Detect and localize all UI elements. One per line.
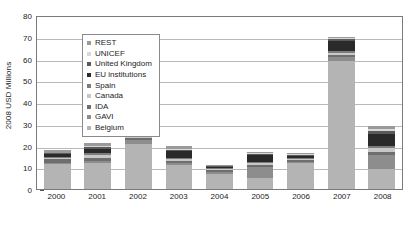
stacked-bar[interactable]: [166, 146, 193, 189]
legend-item[interactable]: Canada: [87, 91, 152, 102]
stacked-bar[interactable]: [44, 150, 71, 189]
y-axis-tick-label: 10: [10, 164, 32, 173]
bar-slot: [240, 17, 281, 189]
y-axis-tick-label: 30: [10, 120, 32, 129]
legend-item[interactable]: EU institutions: [87, 70, 152, 81]
legend-swatch-icon: [87, 73, 91, 77]
legend-item[interactable]: Belgium: [87, 123, 152, 134]
x-axis-tick-label: 2007: [321, 192, 362, 201]
stacked-bar[interactable]: [206, 165, 233, 189]
legend-item[interactable]: REST: [87, 38, 152, 49]
legend-item-label: IDA: [95, 102, 108, 112]
y-axis-tick-label: 70: [10, 33, 32, 42]
bar-segment: [84, 163, 111, 189]
legend-item[interactable]: United Kingdom: [87, 59, 152, 70]
y-axis-tick-label: 20: [10, 142, 32, 151]
bar-segment: [368, 134, 395, 146]
stacked-bar[interactable]: [247, 152, 274, 189]
x-axis-tick-label: 2006: [281, 192, 322, 201]
legend-swatch-icon: [87, 105, 91, 109]
legend-item[interactable]: UNICEF: [87, 49, 152, 60]
legend-item-label: United Kingdom: [95, 59, 152, 69]
bar-segment: [44, 164, 71, 189]
bar-segment: [368, 169, 395, 189]
stacked-bar[interactable]: [328, 37, 355, 189]
bar-segment: [247, 167, 274, 178]
x-axis-tick-label: 2000: [36, 192, 77, 201]
y-axis-tick-label: 60: [10, 55, 32, 64]
bar-slot: [280, 17, 321, 189]
legend-item-label: REST: [95, 38, 116, 48]
bar-segment: [328, 41, 355, 51]
legend-item[interactable]: IDA: [87, 102, 152, 113]
legend-item-label: UNICEF: [95, 49, 125, 59]
x-axis-tick-label: 2003: [158, 192, 199, 201]
legend-swatch-icon: [87, 84, 91, 88]
stacked-bar[interactable]: [368, 126, 395, 189]
plot-area: RESTUNICEFUnited KingdomEU institutionsS…: [36, 16, 403, 190]
stacked-bar[interactable]: [84, 143, 111, 189]
bar-slot: [321, 17, 362, 189]
stacked-bar-chart: 2008 USD Millions 01020304050607080 REST…: [0, 0, 414, 227]
y-axis-tick-label: 50: [10, 77, 32, 86]
legend-item-label: Canada: [95, 91, 123, 101]
legend-swatch-icon: [87, 62, 91, 66]
legend-swatch-icon: [87, 41, 91, 45]
legend-item[interactable]: GAVI: [87, 112, 152, 123]
x-axis-tick-label: 2004: [199, 192, 240, 201]
legend-item-label: EU institutions: [95, 70, 146, 80]
bar-slot: [37, 17, 78, 189]
legend-item-label: GAVI: [95, 112, 114, 122]
y-axis-tick-label: 0: [10, 186, 32, 195]
y-axis-tick: [40, 190, 44, 191]
bar-segment: [287, 163, 314, 189]
bar-segment: [206, 174, 233, 189]
y-axis-tick-labels: 01020304050607080: [8, 16, 32, 190]
legend-item-label: Spain: [95, 81, 115, 91]
bar-segment: [328, 61, 355, 189]
bar-slot: [159, 17, 200, 189]
legend-swatch-icon: [87, 126, 91, 130]
y-axis-tick-label: 40: [10, 99, 32, 108]
bar-slot: [362, 17, 403, 189]
bar-segment: [247, 178, 274, 189]
legend: RESTUNICEFUnited KingdomEU institutionsS…: [82, 34, 160, 137]
legend-swatch-icon: [87, 94, 91, 98]
legend-swatch-icon: [87, 115, 91, 119]
y-axis-tick-label: 80: [10, 12, 32, 21]
bar-slot: [199, 17, 240, 189]
x-axis-tick-labels: 200020012002200320042005200620072008: [36, 192, 403, 201]
x-axis-tick-label: 2001: [77, 192, 118, 201]
x-axis-tick-label: 2002: [118, 192, 159, 201]
x-axis-tick-label: 2005: [240, 192, 281, 201]
legend-item-label: Belgium: [95, 123, 124, 133]
x-axis-tick-label: 2008: [362, 192, 403, 201]
bar-segment: [125, 144, 152, 189]
bar-segment: [166, 165, 193, 189]
legend-item[interactable]: Spain: [87, 80, 152, 91]
bar-segment: [368, 155, 395, 169]
legend-swatch-icon: [87, 52, 91, 56]
stacked-bar[interactable]: [287, 153, 314, 189]
